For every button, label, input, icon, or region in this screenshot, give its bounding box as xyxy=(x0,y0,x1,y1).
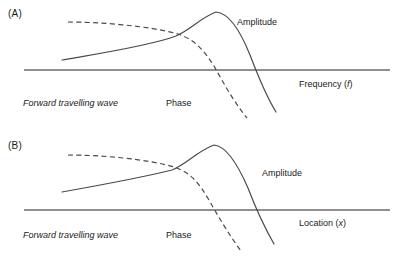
x-axis-label-b: Location (x) xyxy=(299,218,346,229)
x-axis-label-b-close: ) xyxy=(343,218,346,228)
panel-b: (B) Amplitude Phase Location (x) Forward… xyxy=(0,132,394,264)
caption-a: Forward travelling wave xyxy=(23,98,118,109)
phase-label-a: Phase xyxy=(166,98,192,109)
travelling-wave-figure: (A) Amplitude Phase Frequency (f) Forwar… xyxy=(0,0,394,264)
panel-label-a: (A) xyxy=(8,8,22,19)
x-axis-label-a-close: ) xyxy=(350,79,353,89)
panel-label-b: (B) xyxy=(8,140,22,151)
panel-a: (A) Amplitude Phase Frequency (f) Forwar… xyxy=(0,0,394,132)
amplitude-label-b: Amplitude xyxy=(262,168,302,179)
amplitude-label-a: Amplitude xyxy=(237,17,277,28)
x-axis-label-a-text: Frequency ( xyxy=(299,79,347,89)
x-axis-label-a: Frequency (f) xyxy=(299,79,353,90)
x-axis-label-b-text: Location ( xyxy=(299,218,339,228)
panel-b-plot xyxy=(0,132,394,264)
panel-a-plot xyxy=(0,0,394,132)
caption-b: Forward travelling wave xyxy=(23,230,118,241)
phase-label-b: Phase xyxy=(166,230,192,241)
